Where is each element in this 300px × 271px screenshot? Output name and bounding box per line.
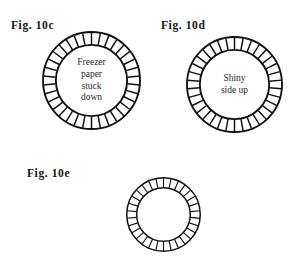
figure-10e-ring-diagram bbox=[126, 177, 201, 252]
tick-ring-icon bbox=[126, 177, 201, 252]
figure-10c-ring-diagram: Freezerpaperstuckdown bbox=[42, 31, 141, 130]
figure-10d-label: Fig. 10d bbox=[161, 19, 205, 31]
tick-ring-icon bbox=[42, 31, 141, 130]
tick-ring-icon bbox=[186, 36, 283, 133]
ring-ticks bbox=[44, 33, 140, 129]
ring-ticks bbox=[188, 37, 282, 131]
figure-10c-label: Fig. 10c bbox=[11, 19, 54, 31]
figure-10d-ring-diagram: Shinyside up bbox=[186, 36, 283, 133]
figure-10e-label: Fig. 10e bbox=[27, 167, 70, 179]
